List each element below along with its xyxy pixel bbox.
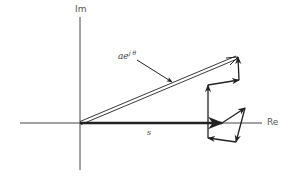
real-axis-label: Re bbox=[267, 118, 278, 127]
imag-axis-label: Im bbox=[75, 5, 86, 14]
label-pointer bbox=[137, 60, 172, 82]
component-vector-chain bbox=[208, 57, 245, 142]
resultant-label-base: ae bbox=[118, 51, 129, 61]
phasor-diagram bbox=[0, 0, 291, 177]
sum-vector-label: s bbox=[147, 129, 151, 137]
resultant-label-exponent: j θ bbox=[129, 49, 136, 56]
resultant-vector bbox=[80, 56, 238, 125]
resultant-label: aej θ bbox=[118, 50, 136, 61]
